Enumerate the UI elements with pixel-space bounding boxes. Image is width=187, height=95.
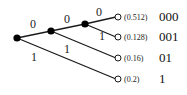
edge-label-n3-0: 0 — [96, 5, 102, 19]
leaf-code: 001 — [159, 29, 179, 44]
root-node — [13, 34, 20, 41]
leaf-node-000 — [115, 14, 121, 20]
leaf-probability: (0.2) — [124, 75, 140, 84]
edge-label-root-0: 0 — [30, 17, 36, 31]
edge-label-root-1: 1 — [31, 50, 37, 64]
edge-label-n2-1: 1 — [64, 42, 70, 56]
leaf-probability: (0.128) — [124, 33, 148, 42]
edge-n2-1 — [51, 31, 116, 58]
leaf-node-01 — [115, 55, 121, 61]
inner-node-3 — [81, 20, 88, 27]
code-tree-diagram: 0 1 0 1 0 1 (0.512) (0.128) (0.16) (0.2)… — [0, 0, 187, 95]
leaf-code: 01 — [159, 50, 172, 65]
leaf-probability: (0.16) — [124, 54, 144, 63]
leaf-probability: (0.512) — [124, 13, 148, 22]
leaf-code: 000 — [159, 9, 179, 24]
leaf-node-001 — [115, 34, 121, 40]
edge-label-n3-1: 1 — [99, 29, 105, 43]
inner-node-2 — [47, 27, 54, 34]
leaf-code: 1 — [159, 71, 166, 86]
edge-root-0 — [17, 31, 51, 38]
edge-label-n2-0: 0 — [64, 12, 70, 26]
leaf-node-1 — [115, 76, 121, 82]
